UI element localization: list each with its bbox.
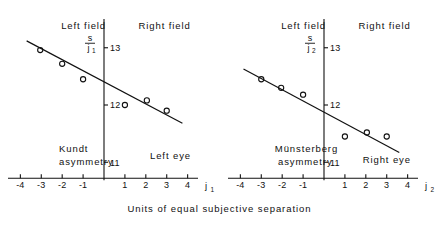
y-axis-label: sj1 — [85, 33, 96, 55]
quadrant-label: Left field — [281, 20, 326, 31]
x-tick-label: -1 — [299, 180, 307, 190]
x-tick-label: 4 — [405, 180, 410, 190]
x-axis-label-symbol: j — [424, 180, 427, 191]
x-tick-label: 4 — [185, 180, 190, 190]
panels-container: -4-3-2-11234j1111213sj1Left fieldRight f… — [0, 0, 439, 200]
figure-caption: Units of equal subjective separation — [0, 203, 439, 214]
x-tick-label: -2 — [278, 180, 286, 190]
quadrant-label: Kundt — [59, 143, 88, 154]
y-axis-label-numerator: s — [88, 33, 93, 43]
y-axis-label: sj2 — [305, 33, 316, 55]
data-point — [364, 130, 369, 135]
scatter-plot-kundt: -4-3-2-11234j1111213sj1Left fieldRight f… — [0, 0, 219, 200]
x-axis-label: j1 — [204, 180, 215, 193]
chart-panel-munsterberg: -4-3-2-11234j2111213sj2Left fieldRight f… — [220, 0, 439, 200]
quadrant-label: Right field — [359, 20, 411, 31]
quadrant-label: Left field — [61, 20, 106, 31]
y-axis-label-numerator: s — [308, 33, 313, 43]
y-axis-label-denominator-subscript: 1 — [92, 47, 96, 54]
data-point — [80, 77, 85, 82]
x-tick-label: -4 — [16, 180, 24, 190]
fit-line — [244, 69, 400, 153]
quadrant-label: asymmetry — [59, 156, 114, 167]
y-axis-label-denominator: j — [87, 43, 90, 53]
y-tick-label: 13 — [330, 43, 340, 53]
quadrant-label: Right field — [139, 20, 191, 31]
x-tick-label: 3 — [384, 180, 389, 190]
data-point — [164, 108, 169, 113]
y-tick-label: 13 — [110, 43, 120, 53]
x-tick-label: 1 — [342, 180, 347, 190]
x-tick-label: 2 — [143, 180, 148, 190]
x-axis-label-symbol: j — [204, 180, 207, 191]
x-tick-label: -1 — [79, 180, 87, 190]
data-point — [300, 92, 305, 97]
data-point — [60, 61, 65, 66]
x-axis-label-subscript: 2 — [431, 186, 435, 193]
quadrant-label: asymmetry — [278, 156, 333, 167]
y-tick-label: 12 — [330, 100, 340, 110]
x-tick-label: 2 — [363, 180, 368, 190]
x-tick-label: -2 — [58, 180, 66, 190]
x-tick-label: -3 — [257, 180, 265, 190]
x-axis-label: j2 — [424, 180, 435, 193]
data-point — [122, 102, 127, 107]
x-tick-label: 1 — [122, 180, 127, 190]
figure-panel-pair: -4-3-2-11234j1111213sj1Left fieldRight f… — [0, 0, 439, 225]
data-point — [342, 134, 347, 139]
y-axis-label-denominator: j — [307, 43, 310, 53]
quadrant-label: Münsterberg — [275, 143, 338, 154]
data-point — [384, 134, 389, 139]
chart-panel-kundt: -4-3-2-11234j1111213sj1Left fieldRight f… — [0, 0, 219, 200]
x-tick-label: -4 — [236, 180, 244, 190]
x-tick-label: 3 — [164, 180, 169, 190]
scatter-plot-munsterberg: -4-3-2-11234j2111213sj2Left fieldRight f… — [220, 0, 439, 200]
y-tick-label: 12 — [110, 100, 120, 110]
quadrant-label: Left eye — [150, 150, 191, 161]
y-axis-label-denominator-subscript: 2 — [312, 47, 316, 54]
data-point — [144, 98, 149, 103]
quadrant-label: Right eye — [363, 154, 411, 165]
x-tick-label: -3 — [37, 180, 45, 190]
x-axis-label-subscript: 1 — [211, 186, 215, 193]
